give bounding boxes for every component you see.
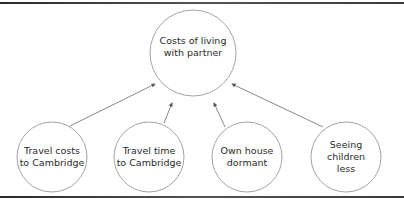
bottom-border-rule <box>0 196 404 198</box>
influence-arrow <box>164 103 172 123</box>
influence-arrow <box>70 84 155 126</box>
factor-node-label-travel-costs: Travel costs to Cambridge <box>17 122 87 192</box>
factor-node-label-seeing-children: Seeing children less <box>311 122 381 192</box>
factor-node-label-own-house: Own house dormant <box>212 122 282 192</box>
influence-arrow <box>232 84 323 127</box>
target-node-label: Costs of living with partner <box>150 18 236 76</box>
factor-node-label-travel-time: Travel time to Cambridge <box>114 122 184 192</box>
arrows-group <box>70 84 323 127</box>
